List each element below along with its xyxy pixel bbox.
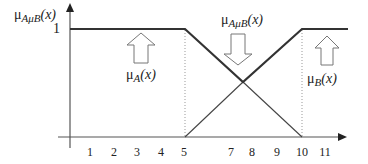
mu-b-label: μB(x) (307, 72, 337, 86)
x-tick-8: 8 (249, 145, 255, 160)
argument: (x) (321, 71, 337, 86)
x-axis-arrow-icon (338, 133, 347, 141)
mu-symbol: μ (126, 67, 134, 82)
mu-amub-label: μAμB(x) (221, 13, 263, 27)
x-tick-11: 11 (319, 145, 331, 160)
x-tick-2: 2 (111, 145, 117, 160)
arrow-down-mu-amub-icon (224, 34, 252, 65)
mu-a-label: μA(x) (126, 68, 156, 82)
y-axis-arrow-icon (66, 3, 74, 12)
mu-symbol: μ (307, 71, 315, 86)
x-tick-3: 3 (134, 145, 140, 160)
x-tick-10: 10 (296, 145, 308, 160)
x-tick-9: 9 (274, 145, 280, 160)
x-tick-7: 7 (228, 145, 234, 160)
subscript: AμB (229, 17, 248, 29)
y-axis-label: μAμB(x) (14, 8, 56, 22)
x-tick-1: 1 (87, 145, 93, 160)
argument: (x) (40, 7, 56, 22)
subscript: B (315, 76, 322, 88)
x-tick-4: 4 (158, 145, 164, 160)
arrow-up-mu-a-icon (127, 33, 155, 63)
x-tick-5: 5 (181, 145, 187, 160)
mu-b-rising-line (185, 82, 243, 137)
mu-a-falling-line (243, 82, 302, 137)
subscript: A (134, 72, 141, 84)
argument: (x) (247, 12, 263, 27)
y-tick-one: 1 (53, 22, 60, 36)
subscript: AμB (22, 12, 41, 24)
argument: (x) (140, 67, 156, 82)
arrow-up-mu-b-icon (315, 36, 339, 65)
mu-symbol: μ (14, 7, 22, 22)
mu-symbol: μ (221, 12, 229, 27)
